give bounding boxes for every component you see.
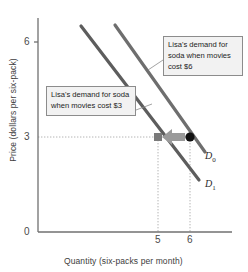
curve-label-d1-subscript: 1 xyxy=(212,184,216,192)
callout-demand-d0: Lisa's demand for soda when movies cost … xyxy=(163,36,243,76)
curve-label-d0-subscript: 0 xyxy=(212,156,216,164)
marker-point-d0 xyxy=(185,132,194,141)
y-tick-label-6: 6 xyxy=(24,36,30,47)
y-tick-label-0: 0 xyxy=(24,226,30,237)
callout-demand-d1: Lisa's demand for soda when movies cost … xyxy=(46,86,136,116)
callout-leader-d0 xyxy=(148,60,163,70)
curve-label-d1: D1 xyxy=(205,178,216,192)
demand-shift-chart: 6 3 0 5 6 Price (dollars per six-pack) Q… xyxy=(0,0,248,272)
x-tick-label-6: 6 xyxy=(187,234,193,245)
x-axis-title: Quantity (six-packs per month) xyxy=(64,256,183,266)
y-tick-label-3: 3 xyxy=(24,131,30,142)
y-axis-title: Price (dollars per six-pack) xyxy=(8,50,18,170)
x-tick-label-5: 5 xyxy=(155,234,161,245)
marker-point-d1 xyxy=(154,133,162,141)
curve-label-d0: D0 xyxy=(205,150,216,164)
shift-arrow-icon xyxy=(162,129,185,145)
